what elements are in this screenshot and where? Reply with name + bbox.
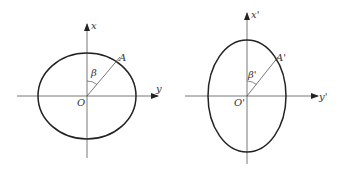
point-label: A' [275,52,286,63]
vertical-axis-label: x' [251,9,259,20]
origin-label: O [77,97,85,108]
origin-label: O' [234,97,245,108]
horizontal-axis-label: y' [318,91,327,102]
angle-arc [247,81,257,85]
figure-transformed: x' y' O' A' β' [185,9,327,164]
point-label: A [118,52,126,63]
angle-arc [87,81,97,85]
horizontal-axis-label: y [155,83,162,94]
angle-label: β' [247,69,257,80]
figure-original: x y O A β [17,20,162,158]
diagram-canvas: x y O A β x' y' O' A' β' [0,0,340,175]
angle-label: β [90,67,97,78]
vertical-axis-label: x [91,20,97,31]
